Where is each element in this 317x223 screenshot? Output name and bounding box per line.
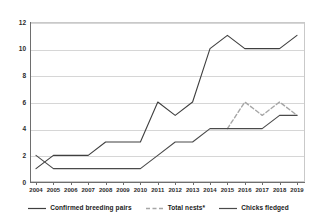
plot-area <box>30 22 305 182</box>
x-tick-mark <box>36 182 37 185</box>
x-tick-mark <box>53 182 54 185</box>
x-tick-mark <box>88 182 89 185</box>
dashed-line-swatch <box>146 205 164 212</box>
line-chart: 024681012 200420052006200720082009201020… <box>0 0 317 223</box>
x-tick-label: 2009 <box>116 186 129 194</box>
x-tick-mark <box>123 182 124 185</box>
gridline <box>31 76 304 77</box>
legend-item[interactable]: Chicks fledged <box>219 204 289 212</box>
x-tick-mark <box>227 182 228 185</box>
x-tick-label: 2005 <box>47 186 60 194</box>
y-tick-label: 10 <box>2 45 26 52</box>
x-tick-label: 2010 <box>134 186 147 194</box>
x-tick-mark <box>262 182 263 185</box>
x-tick-label: 2007 <box>82 186 95 194</box>
x-tick-mark <box>210 182 211 185</box>
gridline <box>31 103 304 104</box>
x-tick-mark <box>106 182 107 185</box>
x-tick-mark <box>297 182 298 185</box>
x-tick-mark <box>245 182 246 185</box>
x-tick-label: 2016 <box>238 186 251 194</box>
x-tick-label: 2018 <box>273 186 286 194</box>
x-axis-tick-labels: 2004200520062007200820092010201120122013… <box>0 186 317 196</box>
x-tick-label: 2013 <box>186 186 199 194</box>
x-tick-label: 2008 <box>99 186 112 194</box>
solid-line-swatch <box>28 205 46 212</box>
solid-line-swatch <box>219 205 237 212</box>
x-tick-label: 2019 <box>290 186 303 194</box>
y-tick-label: 0 <box>2 179 26 186</box>
legend-label: Total nests* <box>168 204 206 212</box>
y-tick-label: 8 <box>2 72 26 79</box>
legend-label: Confirmed breeding pairs <box>50 204 132 212</box>
x-tick-mark <box>158 182 159 185</box>
chart-legend: Confirmed breeding pairsTotal nests*Chic… <box>0 200 317 216</box>
x-tick-label: 2011 <box>151 186 164 194</box>
gridline <box>31 130 304 131</box>
y-tick-label: 6 <box>2 99 26 106</box>
x-tick-mark <box>193 182 194 185</box>
x-tick-label: 2017 <box>256 186 269 194</box>
legend-item[interactable]: Confirmed breeding pairs <box>28 204 132 212</box>
gridline <box>31 50 304 51</box>
x-tick-mark <box>140 182 141 185</box>
x-tick-label: 2012 <box>169 186 182 194</box>
x-tick-label: 2006 <box>64 186 77 194</box>
y-tick-label: 12 <box>2 19 26 26</box>
x-tick-label: 2004 <box>29 186 42 194</box>
x-tick-mark <box>280 182 281 185</box>
x-tick-mark <box>175 182 176 185</box>
x-tick-label: 2015 <box>221 186 234 194</box>
gridline <box>31 23 304 24</box>
legend-label: Chicks fledged <box>241 204 289 212</box>
x-tick-mark <box>71 182 72 185</box>
x-tick-label: 2014 <box>203 186 216 194</box>
y-tick-label: 4 <box>2 125 26 132</box>
y-tick-label: 2 <box>2 152 26 159</box>
gridline <box>31 156 304 157</box>
y-axis-line <box>30 22 31 183</box>
legend-item[interactable]: Total nests* <box>146 204 206 212</box>
